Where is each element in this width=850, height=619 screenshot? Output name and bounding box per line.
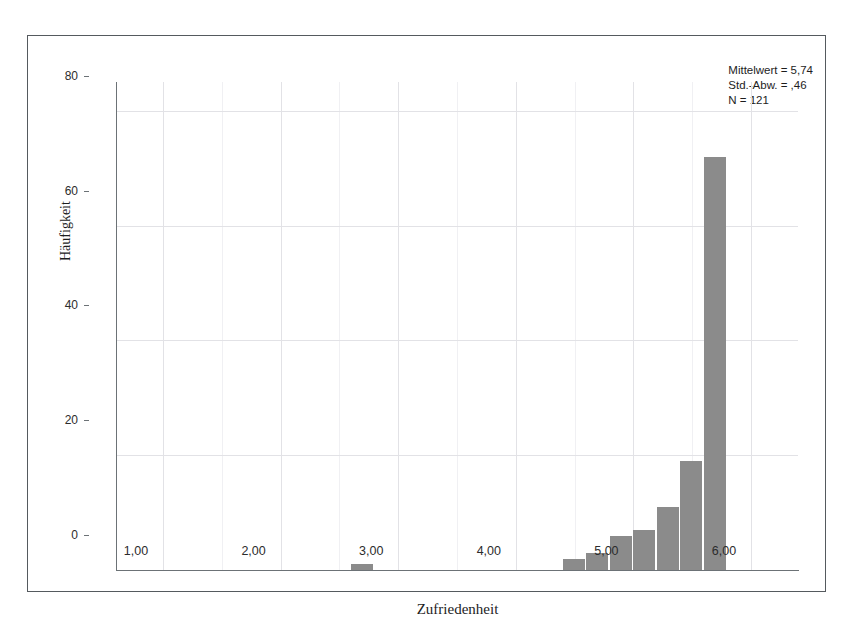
gridline-horizontal [116, 111, 798, 112]
x-axis-line [116, 570, 799, 571]
gridline-vertical-minor [339, 82, 340, 570]
y-tick-label: 20 [65, 414, 78, 426]
x-tick-label: 5,00 [594, 545, 618, 558]
histogram-bar [633, 530, 655, 570]
chart-frame: Mittelwert = 5,74 Std.-Abw. = ,46 N = 12… [27, 35, 826, 592]
gridline-vertical [633, 82, 634, 570]
y-tick-label: 80 [65, 70, 78, 82]
y-tick-mark [84, 535, 89, 536]
y-tick-mark [84, 305, 89, 306]
plot-inner [116, 82, 798, 570]
mean-label: Mittelwert = 5,74 [728, 63, 813, 78]
gridline-vertical [281, 82, 282, 570]
gridline-horizontal [116, 226, 798, 227]
y-tick-label: 40 [65, 299, 78, 311]
x-tick-label: 3,00 [359, 545, 383, 558]
y-tick-label: 0 [71, 529, 78, 541]
gridline-vertical [751, 82, 752, 570]
x-axis-title: Zufriedenheit [116, 601, 799, 618]
gridline-vertical [516, 82, 517, 570]
x-tick-label: 6,00 [712, 545, 736, 558]
y-tick-mark [84, 420, 89, 421]
gridline-horizontal [116, 455, 798, 456]
gridline-vertical [398, 82, 399, 570]
histogram-bar [704, 157, 726, 570]
gridline-vertical [163, 82, 164, 570]
gridline-vertical-minor [457, 82, 458, 570]
plot-area [116, 82, 798, 570]
y-tick-label: 60 [65, 185, 78, 197]
histogram-bar [563, 559, 585, 571]
gridline-horizontal [116, 340, 798, 341]
x-tick-label: 1,00 [124, 545, 148, 558]
x-tick-label: 2,00 [241, 545, 265, 558]
gridline-vertical-minor [575, 82, 576, 570]
gridline-vertical-minor [222, 82, 223, 570]
x-tick-label: 4,00 [477, 545, 501, 558]
y-tick-mark [84, 191, 89, 192]
histogram-bar [680, 461, 702, 570]
y-axis-line [116, 82, 117, 571]
histogram-figure: Mittelwert = 5,74 Std.-Abw. = ,46 N = 12… [0, 0, 850, 619]
y-tick-mark [84, 76, 89, 77]
histogram-bar [657, 507, 679, 570]
y-axis-title: Häufigkeit [58, 201, 74, 261]
